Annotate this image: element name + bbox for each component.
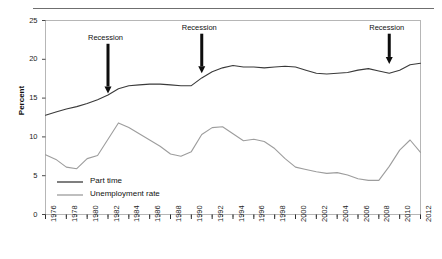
x-axis-tick-label: 1986: [153, 205, 162, 222]
recession-annotation-label: Recession: [369, 23, 404, 32]
y-axis-tick-label: 15: [16, 93, 38, 102]
x-axis-tick-label: 1998: [278, 205, 287, 222]
legend-item-label: Unemployment rate: [90, 189, 160, 198]
series-line: [46, 63, 421, 115]
y-axis-tick-label: 5: [16, 171, 38, 180]
x-axis-tick-label: 1988: [174, 205, 183, 222]
x-axis-tick-label: 2010: [403, 205, 412, 222]
recession-arrow-shaft: [107, 44, 110, 87]
y-axis-tick-label: 10: [16, 132, 38, 141]
x-axis-tick-label: 2008: [382, 205, 391, 222]
x-axis-tick-label: 1980: [91, 205, 100, 222]
y-axis-tick-label: 0: [16, 210, 38, 219]
y-axis-tick-label: 20: [16, 54, 38, 63]
x-axis-tick-label: 2002: [320, 205, 329, 222]
recession-arrow-head: [105, 86, 112, 93]
x-axis-tick-label: 1982: [112, 205, 121, 222]
x-axis-tick-label: 2012: [424, 205, 433, 222]
x-axis-tick-label: 1992: [216, 205, 225, 222]
recession-arrow-shaft: [388, 34, 391, 57]
x-axis-tick-label: 1984: [132, 205, 141, 222]
x-axis-tick-label: 1978: [70, 205, 79, 222]
series-line: [46, 123, 421, 180]
legend-item-label: Part time: [90, 176, 122, 185]
plot-frame: [46, 21, 421, 215]
recession-arrow-shaft: [200, 34, 203, 67]
recession-annotation-label: Recession: [182, 23, 217, 32]
x-axis-tick-label: 1994: [237, 205, 246, 222]
x-axis-tick-label: 2000: [299, 205, 308, 222]
x-axis-tick-label: 2006: [362, 205, 371, 222]
x-axis-tick-label: 1976: [49, 205, 58, 222]
chart-figure: Percent 05101520251976197819801982198419…: [0, 0, 442, 259]
x-axis-tick-label: 1990: [195, 205, 204, 222]
y-axis-tick-label: 25: [16, 16, 38, 25]
recession-annotation-label: Recession: [88, 33, 123, 42]
x-axis-tick-label: 1996: [257, 205, 266, 222]
x-axis-tick-label: 2004: [341, 205, 350, 222]
recession-arrow-head: [386, 57, 393, 64]
recession-arrow-head: [198, 66, 205, 73]
